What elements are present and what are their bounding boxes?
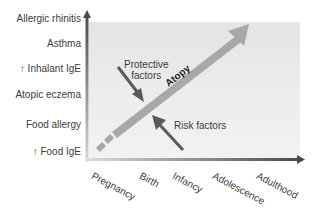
atopy-arrow xyxy=(96,24,249,152)
x-axis-arrow xyxy=(86,155,305,164)
protective-factors-line2: factors xyxy=(124,70,168,81)
y-label-food-allergy: Food allergy xyxy=(26,119,81,131)
y-label-allergic-rhinitis: Allergic rhinitis xyxy=(17,13,81,25)
y-axis-arrow xyxy=(83,10,91,162)
protective-factors-label: Protective factors xyxy=(124,59,168,81)
y-label-atopic-eczema: Atopic eczema xyxy=(15,89,81,101)
y-label-food-ige: ↑ Food IgE xyxy=(33,146,81,158)
y-label-asthma: Asthma xyxy=(47,38,81,50)
risk-factors-label: Risk factors xyxy=(174,120,226,131)
y-label-inhalant-ige: ↑ Inhalant IgE xyxy=(20,63,81,75)
protective-factors-line1: Protective xyxy=(124,59,168,70)
